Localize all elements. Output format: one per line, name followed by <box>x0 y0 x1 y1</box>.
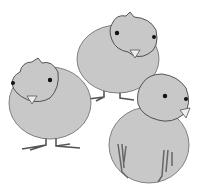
eye-icon <box>184 97 188 101</box>
eye-icon <box>115 31 119 35</box>
eye-icon <box>48 78 52 82</box>
eye-icon <box>11 81 15 85</box>
chick-head <box>138 74 189 121</box>
eye-icon <box>152 35 156 39</box>
eye-icon <box>163 94 167 98</box>
chicks-illustration <box>0 0 203 190</box>
chick-front-left <box>9 58 91 150</box>
